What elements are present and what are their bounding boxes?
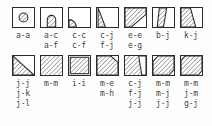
label-text: a-f — [44, 41, 58, 51]
cell-labels: a-c a-f — [44, 31, 58, 51]
label-text: m-h — [100, 89, 114, 99]
label-text: c-j — [128, 79, 142, 89]
label-text: a-c — [44, 31, 58, 41]
figure-cell: c-j f-j — [93, 7, 121, 51]
label-text: j-k — [16, 89, 30, 99]
label-text: j-j — [128, 99, 142, 109]
label-text: m-m — [44, 79, 58, 89]
cell-labels: c-c c-f — [72, 31, 86, 51]
figure-cell: a-a — [9, 7, 37, 41]
shape-label-figure: a-a a-c a-f — [0, 0, 212, 126]
label-text: m-m — [156, 79, 170, 89]
figure-cell: k-j — [177, 7, 205, 41]
label-text: a-a — [16, 31, 30, 41]
label-text: e-e — [128, 31, 142, 41]
label-text: j-m — [184, 89, 198, 99]
figure-cell: j-j j-k j-l — [9, 55, 37, 109]
label-text: f-j — [100, 41, 114, 51]
figure-cell: b-j — [149, 7, 177, 41]
square-with-hatched-quarter-corner-icon — [68, 7, 91, 28]
square-with-hatched-circle-icon — [12, 7, 35, 28]
label-text: c-c — [72, 31, 86, 41]
figure-cell: m-m m-j j-j — [149, 55, 177, 109]
label-text: j-l — [16, 99, 30, 109]
label-text: k-j — [184, 31, 198, 41]
square-hatched-octagonal-icon — [152, 55, 175, 76]
label-text: c-j — [100, 31, 114, 41]
figure-row-2: j-j j-k j-l m-m — [0, 51, 212, 109]
cell-labels: j-j j-k j-l — [16, 79, 30, 109]
cell-labels: c-j f-j j-j — [128, 79, 142, 109]
figure-cell: a-c a-f — [37, 7, 65, 51]
figure-cell: m-e m-h — [93, 55, 121, 99]
figure-cell: c-c c-f — [65, 7, 93, 51]
cell-labels: b-j — [156, 31, 170, 41]
label-text: m-m — [184, 79, 198, 89]
figure-row-1: a-a a-c a-f — [0, 0, 212, 51]
cell-labels: a-a — [16, 31, 30, 41]
label-text: m-j — [156, 89, 170, 99]
square-with-hatched-half-diagonal-icon — [12, 55, 35, 76]
square-fully-hatched-inset-icon — [68, 55, 91, 76]
square-with-large-hatched-triangle-icon — [124, 7, 147, 28]
label-text: m-e — [100, 79, 114, 89]
cell-labels: c-j f-j — [100, 31, 114, 51]
cell-labels: m-m j-m g-j — [184, 79, 198, 109]
label-text: i-i — [72, 79, 86, 89]
figure-cell: m-m — [37, 55, 65, 89]
label-text: c-f — [72, 41, 86, 51]
square-fully-hatched-icon — [40, 55, 63, 76]
label-text: j-j — [16, 79, 30, 89]
cell-labels: i-i — [72, 79, 86, 89]
figure-cell: i-i — [65, 55, 93, 89]
square-hatched-clipped-corner-icon — [96, 55, 119, 76]
label-text: b-j — [156, 31, 170, 41]
label-text: e-g — [128, 41, 142, 51]
square-hatched-with-notch-icon — [124, 55, 147, 76]
label-text: g-j — [184, 99, 198, 109]
square-with-hatched-trapezoid-icon — [180, 7, 203, 28]
cell-labels: m-e m-h — [100, 79, 114, 99]
square-with-narrow-hatched-wedge-icon — [96, 7, 119, 28]
cell-labels: m-m m-j j-j — [156, 79, 170, 109]
square-with-vertical-hatched-band-icon — [152, 7, 175, 28]
square-with-hatched-dome-icon — [40, 7, 63, 28]
cell-labels: e-e e-g — [128, 31, 142, 51]
square-hatched-beveled-icon — [180, 55, 203, 76]
label-text: j-j — [156, 99, 170, 109]
cell-labels: m-m — [44, 79, 58, 89]
cell-labels: k-j — [184, 31, 198, 41]
label-text: f-j — [128, 89, 142, 99]
figure-cell: c-j f-j j-j — [121, 55, 149, 109]
figure-cell: m-m j-m g-j — [177, 55, 205, 109]
figure-cell: e-e e-g — [121, 7, 149, 51]
